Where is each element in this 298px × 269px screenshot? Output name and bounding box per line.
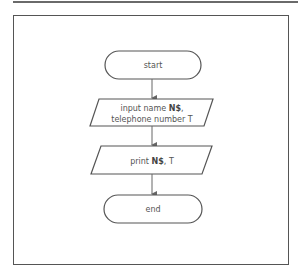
flowchart: start input name N$, telephone number T … <box>0 0 298 269</box>
start-label: start <box>144 61 163 70</box>
end-label: end <box>145 205 160 214</box>
end-node: end <box>104 195 202 223</box>
input-label-line2: telephone number T <box>111 115 193 124</box>
print-node: print N$, T <box>91 146 212 174</box>
input-label-line1: input name N$, <box>120 104 183 113</box>
input-node: input name N$, telephone number T <box>90 99 213 126</box>
start-node: start <box>105 51 201 79</box>
print-label: print N$, T <box>130 157 174 166</box>
